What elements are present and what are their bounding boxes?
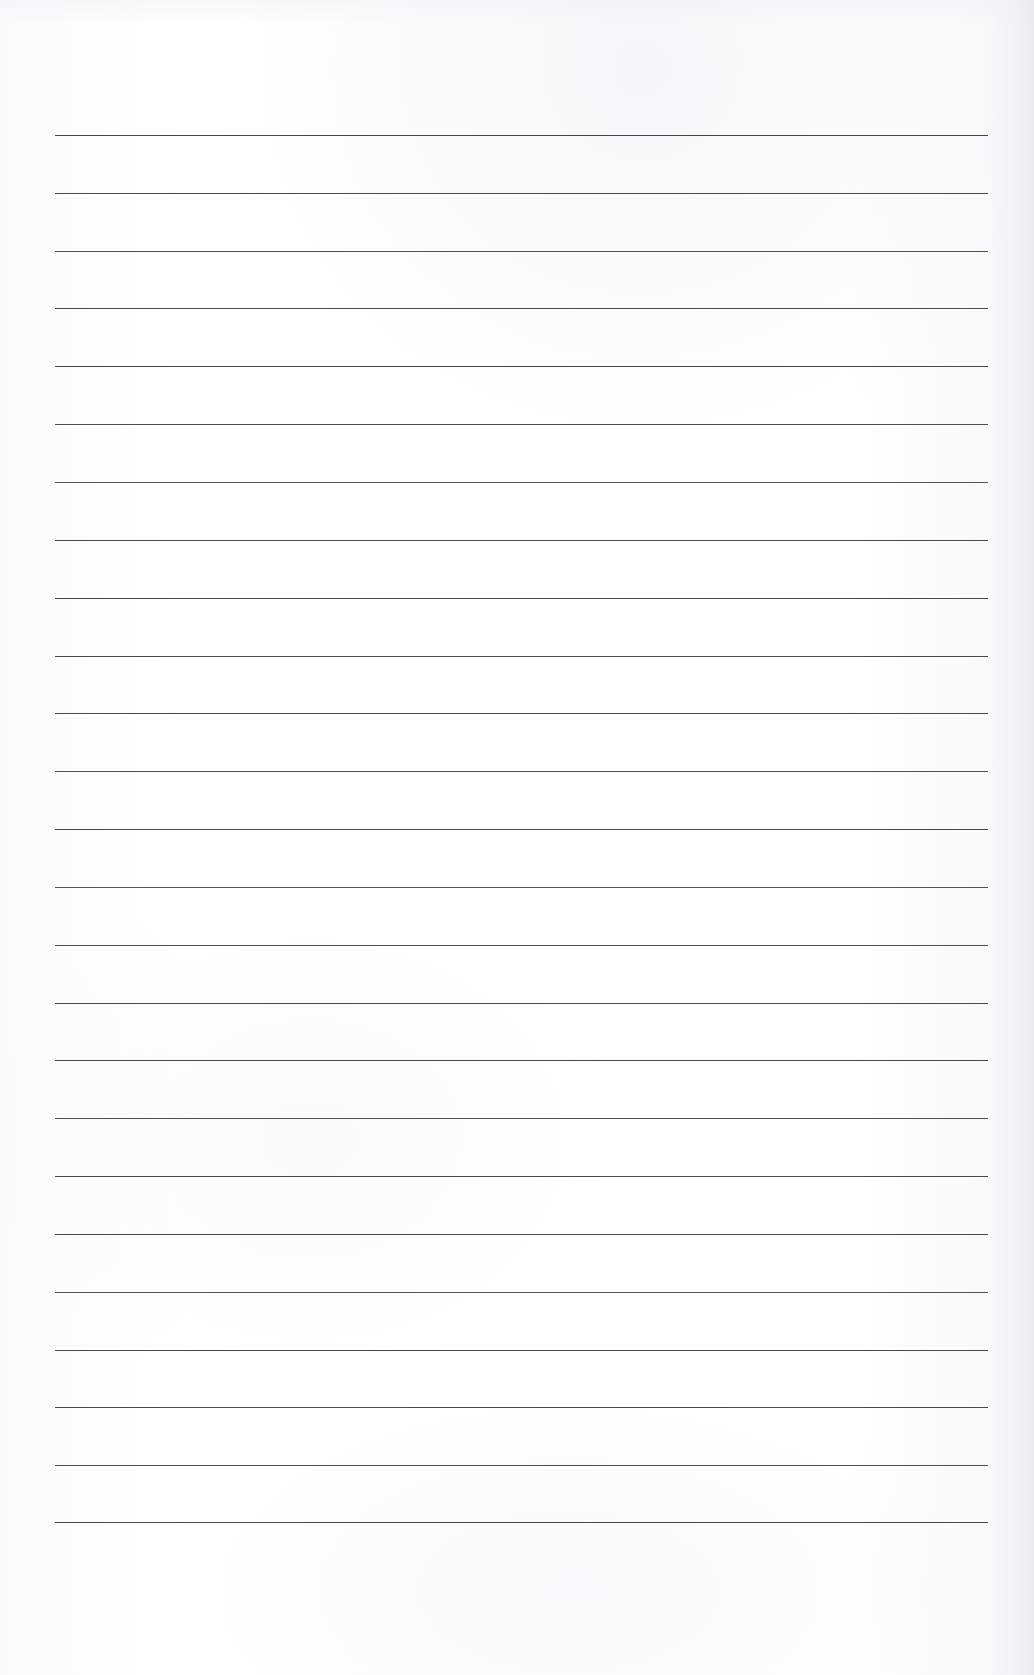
lined-paper-page xyxy=(0,0,1034,1675)
writing-area[interactable] xyxy=(55,135,988,1522)
ruling-line xyxy=(55,1522,988,1523)
